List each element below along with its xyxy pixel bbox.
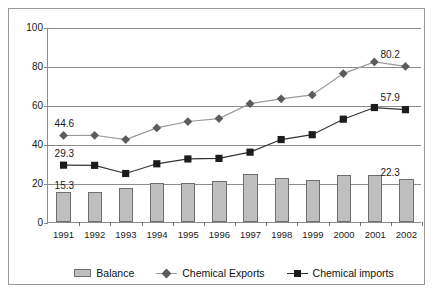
legend-label: Balance: [96, 267, 134, 279]
data-label-chemical-exports-2002: 80.2: [380, 50, 399, 60]
x-tick-label-2001: 2001: [365, 230, 386, 240]
marker-1996: [215, 155, 222, 162]
x-tick-mark-1997: [266, 222, 267, 226]
x-tick-mark-2002: [422, 222, 423, 226]
bar-2002: [399, 179, 413, 222]
y-tick-label-0: 0: [37, 218, 43, 228]
marker-1998: [278, 136, 285, 143]
marker-1996: [215, 114, 224, 123]
marker-1993: [121, 135, 130, 144]
x-tick-mark-1996: [235, 222, 236, 226]
x-tick-mark-1999: [329, 222, 330, 226]
bar-1998: [275, 178, 289, 222]
marker-1994: [153, 160, 160, 167]
bar-1992: [88, 192, 102, 222]
x-tick-label-1992: 1992: [84, 230, 105, 240]
y-tick-mark-0: [44, 223, 48, 224]
x-tick-label-1999: 1999: [302, 230, 323, 240]
bar-1994: [150, 183, 164, 222]
y-tick-label-60: 60: [32, 101, 43, 111]
square-marker-icon: [287, 269, 308, 278]
x-tick-mark-2000: [360, 222, 361, 226]
marker-1995: [183, 117, 192, 126]
marker-1997: [246, 149, 253, 156]
bar-1991: [56, 192, 70, 222]
marker-1994: [152, 124, 161, 133]
diamond-marker-icon: [156, 269, 177, 278]
x-tick-label-1993: 1993: [115, 230, 136, 240]
data-label-balance-1991: 15.3: [55, 181, 74, 191]
data-label-balance-2002: 22.3: [380, 168, 399, 178]
x-tick-label-1998: 1998: [271, 230, 292, 240]
y-tick-label-80: 80: [32, 62, 43, 72]
x-tick-label-1995: 1995: [178, 230, 199, 240]
y-tick-label-40: 40: [32, 140, 43, 150]
marker-1998: [277, 94, 286, 103]
x-tick-label-2000: 2000: [334, 230, 355, 240]
y-tick-mark-80: [44, 67, 48, 68]
marker-1991: [59, 131, 68, 140]
data-label-chemical-imports-1991: 29.3: [55, 149, 74, 159]
gridline-20: [48, 184, 421, 185]
marker-1995: [184, 155, 191, 162]
bar-2001: [368, 175, 382, 222]
marker-2000: [340, 116, 347, 123]
bar-1997: [243, 174, 257, 222]
legend-item-balance[interactable]: Balance: [74, 267, 134, 279]
x-tick-mark-1993: [142, 222, 143, 226]
bar-1995: [181, 183, 195, 222]
y-tick-mark-20: [44, 184, 48, 185]
chart-legend: BalanceChemical ExportsChemical imports: [47, 267, 421, 279]
series-lines-layer: [48, 28, 421, 222]
x-tick-label-2002: 2002: [396, 230, 417, 240]
series-line: [64, 62, 406, 140]
gridline-80: [48, 67, 421, 68]
chart-frame: 020406080100 44.629.315.380.257.922.3 19…: [8, 8, 425, 285]
x-tick-mark-1998: [297, 222, 298, 226]
data-label-chemical-imports-2002: 57.9: [380, 93, 399, 103]
x-tick-label-1996: 1996: [209, 230, 230, 240]
bar-swatch-icon: [74, 269, 91, 277]
gridline-100: [48, 28, 421, 29]
x-tick-mark-2001: [391, 222, 392, 226]
legend-item-chemical-exports[interactable]: Chemical Exports: [156, 267, 264, 279]
legend-square-marker: [294, 270, 301, 277]
legend-item-chemical-imports[interactable]: Chemical imports: [287, 267, 394, 279]
marker-1999: [308, 91, 317, 100]
series-chemical-imports: [60, 104, 409, 177]
marker-1993: [122, 170, 129, 177]
plot-area: 020406080100 44.629.315.380.257.922.3 19…: [47, 28, 421, 223]
series-line: [64, 108, 406, 174]
series-chemical-exports: [59, 58, 410, 144]
legend-label: Chemical Exports: [182, 267, 264, 279]
marker-1992: [91, 162, 98, 169]
x-tick-mark-1994: [173, 222, 174, 226]
marker-2002: [402, 106, 409, 113]
y-tick-label-100: 100: [26, 23, 43, 33]
x-tick-mark-1995: [204, 222, 205, 226]
x-tick-mark-1991: [79, 222, 80, 226]
bar-1996: [212, 181, 226, 222]
x-tick-label-1997: 1997: [240, 230, 261, 240]
y-tick-mark-60: [44, 106, 48, 107]
x-tick-label-1994: 1994: [147, 230, 168, 240]
marker-1991: [60, 162, 67, 169]
marker-1999: [309, 131, 316, 138]
marker-2001: [370, 58, 379, 67]
bar-1999: [306, 180, 320, 222]
x-tick-label-1991: 1991: [53, 230, 74, 240]
marker-2000: [339, 69, 348, 78]
y-tick-mark-100: [44, 28, 48, 29]
y-tick-label-20: 20: [32, 179, 43, 189]
bar-2000: [337, 175, 351, 222]
legend-label: Chemical imports: [313, 267, 394, 279]
gridline-60: [48, 106, 421, 107]
x-tick-mark-1992: [110, 222, 111, 226]
bar-1993: [119, 188, 133, 222]
legend-diamond-marker: [162, 268, 172, 278]
gridline-40: [48, 145, 421, 146]
y-tick-mark-40: [44, 145, 48, 146]
data-label-chemical-exports-1991: 44.6: [55, 119, 74, 129]
marker-1992: [90, 131, 99, 140]
